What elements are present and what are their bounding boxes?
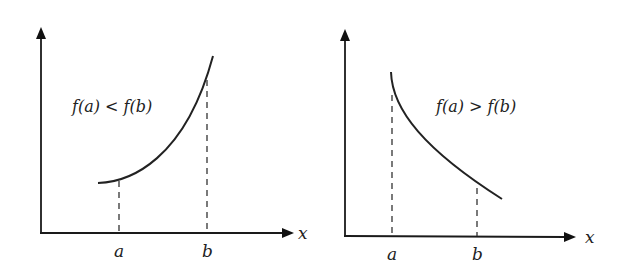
increasing-curve: [98, 56, 213, 183]
x-axis-arrow-icon: [564, 232, 576, 242]
panel-decreasing: x a b f(a) > f(b): [340, 29, 595, 264]
decreasing-curve: [391, 72, 502, 199]
panel-increasing: x a b f(a) < f(b): [36, 27, 308, 261]
x-axis-label: x: [585, 227, 595, 247]
tick-label-b: b: [202, 241, 213, 261]
y-axis-arrow-icon: [36, 27, 46, 39]
x-axis-arrow-icon: [282, 228, 294, 238]
tick-label-a: a: [114, 241, 124, 261]
x-axis-label: x: [298, 223, 308, 243]
relation-label: f(a) < f(b): [71, 97, 152, 116]
relation-label: f(a) > f(b): [435, 97, 516, 116]
tick-label-a: a: [387, 244, 397, 264]
tick-label-b: b: [472, 244, 483, 264]
x-axis: [344, 236, 566, 237]
function-monotonicity-diagram: x a b f(a) < f(b) x a b f(a) > f(b): [0, 0, 625, 274]
y-axis-arrow-icon: [340, 29, 350, 41]
